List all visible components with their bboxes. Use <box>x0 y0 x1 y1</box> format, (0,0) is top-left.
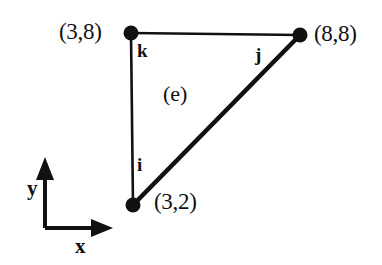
x-axis-arrowhead-icon <box>91 219 113 237</box>
x-axis-label: x <box>75 236 86 257</box>
element-label: (e) <box>163 83 187 105</box>
node-label-j: j <box>255 45 261 64</box>
edge-i-j-line <box>133 35 300 205</box>
node-label-i: i <box>137 155 142 174</box>
y-axis-arrowhead-icon <box>36 157 54 180</box>
coordinate-label-top-left: (3,8) <box>59 20 102 43</box>
node-k-dot <box>124 26 139 41</box>
node-j-dot <box>293 28 308 43</box>
triangular-element-diagram: (3,8) (8,8) (3,2) k j i (e) y x <box>0 0 382 265</box>
y-axis-label: y <box>27 178 38 199</box>
coordinate-label-top-right: (8,8) <box>314 22 357 45</box>
coordinate-label-bottom-left: (3,2) <box>154 190 197 213</box>
node-i-dot <box>126 198 141 213</box>
edge-i-k-line <box>131 33 133 205</box>
edge-k-j-line <box>131 33 300 35</box>
node-label-k: k <box>137 41 148 60</box>
